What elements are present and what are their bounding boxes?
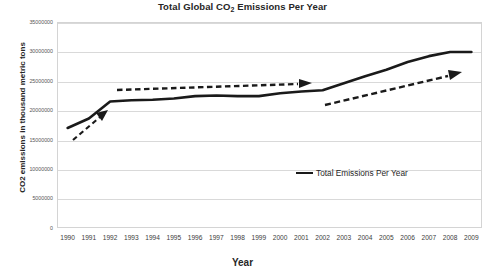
chart-legend: Total Emissions Per Year (296, 168, 408, 178)
y-tick-label: 30000000 (0, 49, 53, 54)
y-tick-label: 5000000 (0, 196, 53, 201)
y-tick-label: 10000000 (0, 167, 53, 172)
y-tick-label: 25000000 (0, 79, 53, 84)
y-tick-label: 0 (0, 226, 53, 231)
y-tick-label: 15000000 (0, 138, 53, 143)
x-tick-label: 2009 (457, 235, 485, 242)
x-axis-title: Year (0, 257, 485, 268)
y-tick-label: 20000000 (0, 108, 53, 113)
legend-swatch-total-emissions (296, 172, 313, 175)
legend-label-total-emissions: Total Emissions Per Year (316, 168, 408, 178)
chart-container: Total Global CO2 Emissions Per Year CO2 … (0, 0, 485, 277)
y-tick-label: 35000000 (0, 20, 53, 25)
